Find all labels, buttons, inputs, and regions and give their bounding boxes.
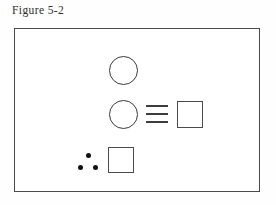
circle-middle <box>109 100 138 129</box>
triple-bar-line-2 <box>146 113 168 115</box>
square-middle <box>177 101 203 128</box>
dot-bottom-left <box>78 165 83 170</box>
dot-top <box>86 153 91 158</box>
figure-frame <box>14 28 260 192</box>
figure-page: Figure 5-2 <box>0 0 276 205</box>
triple-bar-icon <box>146 103 168 125</box>
square-bottom <box>108 147 134 173</box>
triple-bar-line-1 <box>146 105 168 107</box>
circle-top <box>109 56 138 85</box>
dot-bottom-right <box>93 165 98 170</box>
triple-bar-line-3 <box>146 121 168 123</box>
figure-caption: Figure 5-2 <box>12 4 64 16</box>
